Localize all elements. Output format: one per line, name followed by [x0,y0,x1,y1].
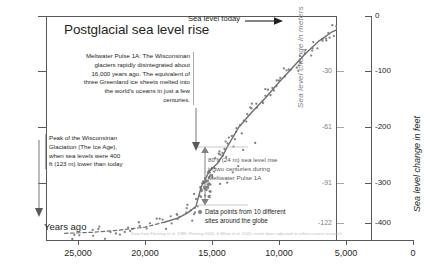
data-point [279,77,281,79]
data-point [138,221,140,223]
x-label-0: 0 [383,248,427,258]
x-label-5000: 5,000 [316,248,376,258]
feet-tick-400 [365,223,371,224]
x-tick-20000 [145,240,146,245]
x-label-25000: 25,000 [48,248,108,258]
x-axis-line [46,240,413,241]
meters-label-122: -122 [306,219,332,226]
data-point [149,222,151,224]
feet-label-400: -400 [375,218,391,227]
x-tick-5000 [346,240,347,245]
feet-tick-0 [365,16,371,17]
data-point [250,107,252,109]
sea-level-today-label: Sea level today [188,14,240,23]
data-point [195,198,197,200]
data-point [97,228,99,230]
data-point [71,238,73,240]
data-point [228,136,230,138]
x-tick-25000 [78,240,79,245]
meters-label-61: -61 [306,123,332,130]
data-point [276,79,278,81]
feet-tick-100 [365,71,371,72]
data-point [255,103,257,105]
data-point [312,41,314,43]
data-point [328,37,330,39]
data-point [224,140,226,142]
data-point [170,215,172,217]
data-point [98,225,100,227]
data-point [92,235,94,237]
y-axis-label-meters: Sea level change in meters [296,6,305,108]
data-point [285,69,287,71]
x-tick-10000 [279,240,280,245]
y-axis-label-feet: Sea level change in feet [412,116,422,212]
peak-leader-arrow-icon [33,140,45,218]
sea-level-today-arrow-icon [245,15,285,27]
feet-tick-300 [365,183,371,184]
data-point [269,94,271,96]
data-point [325,37,327,39]
data-point [191,220,193,222]
data-point [156,218,158,220]
data-point [241,132,243,134]
data-point [267,89,269,91]
annotation-pulse-rise-measure: 80 ft (24 m) sea level rise in two centu… [208,156,280,183]
feet-label-200: -200 [375,122,391,131]
annotation-meltwater-pulse: Meltwater Pulse 1A: The Wisconsinan glac… [82,52,194,105]
data-point [234,138,236,140]
data-point [331,24,333,26]
data-point [186,204,188,206]
meters-tick-30 [337,71,344,72]
data-point [251,103,253,105]
data-point [161,218,163,220]
data-point [245,120,247,122]
data-point [246,113,248,115]
x-label-20000: 20,000 [115,248,175,258]
data-point [193,213,195,215]
annotation-peak-glaciation: Peak of the Wisconsinan Glaciation (The … [45,134,123,169]
x-axis-label: Years ago [44,221,86,232]
left-tick-100 [38,71,46,72]
x-tick-0 [413,240,414,245]
meters-tick-122 [337,223,344,224]
left-tick-0 [38,16,46,17]
source-note: Data from Fleming et al. 1998, Fleming 2… [131,231,342,236]
data-point [104,238,106,240]
data-point [311,49,313,51]
data-point [165,228,167,230]
data-point [316,47,318,49]
x-label-15000: 15,000 [182,248,242,258]
meters-label-30: -30 [306,67,332,74]
data-point [283,67,285,69]
meters-label-91: -91 [306,179,332,186]
data-point [186,207,188,209]
data-point [78,234,80,236]
data-point [193,193,195,195]
data-point [159,218,161,220]
data-point [264,88,266,90]
data-point [124,231,126,233]
legend-marker-dot [198,210,202,214]
data-point [170,222,172,224]
x-label-10000: 10,000 [249,248,309,258]
data-point [176,214,178,216]
data-point [146,227,148,229]
data-point [119,233,121,235]
data-point [254,142,256,144]
meters-tick-61 [337,127,344,128]
feet-label-100: -100 [375,66,391,75]
data-point [92,229,94,231]
data-point [333,35,335,37]
legend-label: Data points from 10 different sites arou… [205,207,297,226]
feet-tick-200 [365,127,371,128]
left-tick-200 [38,127,46,128]
data-point [73,234,75,236]
data-point [139,225,141,227]
feet-label-300: -300 [375,178,391,187]
meters-tick-91 [337,183,344,184]
feet-label-0: 0 [375,11,379,20]
feet-axis-line [371,16,372,240]
data-point [115,232,117,234]
data-point [310,54,312,56]
